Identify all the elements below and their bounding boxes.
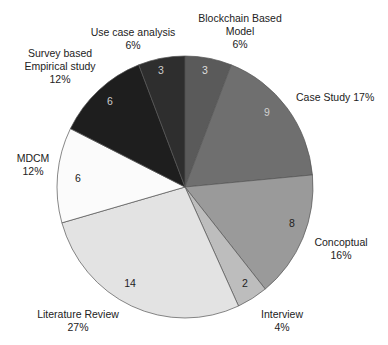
slice-value-concoptual: 8 [289, 217, 295, 229]
slice-value-use-case-analysis: 3 [158, 64, 164, 76]
pie-slices [57, 56, 313, 318]
slice-label-mdcm: MDCM12% [17, 152, 50, 177]
slice-label-interview: Interview4% [261, 308, 303, 333]
slice-label-concoptual: Concoptual16% [314, 236, 367, 261]
slice-label-use-case-analysis: Use case analysis6% [91, 26, 176, 51]
slice-label-case-study: Case Study 17% [296, 91, 374, 103]
slice-value-survey-based-empirical-study: 6 [107, 95, 113, 107]
slice-value-blockchain-based-model: 3 [202, 64, 208, 76]
slice-value-case-study: 9 [264, 106, 270, 118]
slice-label-literature-review: Literature Review27% [37, 308, 119, 333]
slice-value-interview: 2 [242, 277, 248, 289]
slice-label-blockchain-based-model: Blockchain BasedModel6% [198, 12, 282, 50]
slice-value-mdcm: 6 [75, 172, 81, 184]
pie-chart: 398214663 Blockchain BasedModel6%Case St… [0, 0, 388, 345]
slice-label-survey-based-empirical-study: Survey basedEmpirical study12% [24, 47, 96, 85]
slice-value-literature-review: 14 [124, 277, 136, 289]
